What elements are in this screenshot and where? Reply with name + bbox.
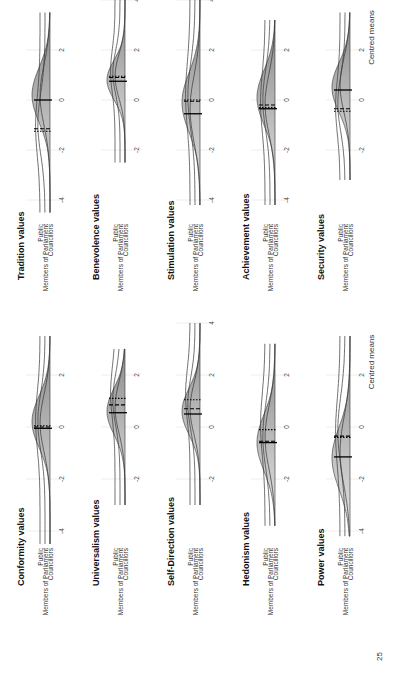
tick-label: -2 (358, 147, 365, 153)
tick-label: -2 (58, 147, 65, 153)
tick-label: 0 (133, 425, 140, 429)
tick-label: 4 (133, 0, 140, 2)
tick-label: 2 (133, 48, 140, 52)
tick-label: 2 (58, 48, 65, 52)
panel-title: Tradition values (16, 211, 26, 280)
tick-label: 0 (283, 425, 290, 429)
panel-title: Conformity values (16, 507, 26, 586)
tick-label: -2 (283, 147, 290, 153)
panel-title: Security values (316, 214, 326, 280)
panel-title: Self-Direction values (166, 497, 176, 586)
tick-label: -4 (58, 528, 65, 534)
panel-title: Benevolence values (91, 194, 101, 280)
panel-power-values: Power valuesPublicMembers of ParliamentC… (316, 335, 376, 616)
tick-label: 0 (358, 425, 365, 429)
group-label: Councillors (272, 223, 279, 256)
tick-label: 2 (358, 48, 365, 52)
panel-title: Power values (316, 528, 326, 586)
tick-label: 0 (58, 425, 65, 429)
group-label: Councillors (47, 547, 54, 580)
group-label: Councillors (122, 223, 129, 256)
density-area (257, 20, 275, 205)
tick-label: 2 (208, 373, 215, 377)
panel-benevolence-values: Benevolence valuesPublicMembers of Parli… (91, 0, 140, 291)
group-label: Councillors (272, 547, 279, 580)
x-axis-label: Centred means (367, 10, 376, 65)
density-area (257, 344, 275, 526)
density-area (32, 13, 50, 213)
group-label: Councillors (197, 547, 204, 580)
tick-label: -4 (208, 197, 215, 203)
panel-self-direction-values: Self-Direction valuesPublicMembers of Pa… (166, 321, 215, 615)
panel-hedonism-values: Hedonism valuesPublicMembers of Parliame… (241, 344, 290, 615)
tick-label: 0 (58, 98, 65, 102)
tick-label: 2 (358, 373, 365, 377)
tick-label: 0 (208, 98, 215, 102)
tick-label: -2 (58, 476, 65, 482)
tick-label: 2 (133, 373, 140, 377)
panel-title: Achievement values (241, 193, 251, 280)
panel-security-values: Security valuesPublicMembers of Parliame… (316, 10, 376, 291)
tick-label: -2 (133, 476, 140, 482)
tick-label: 0 (283, 98, 290, 102)
panel-title: Hedonism values (241, 512, 251, 586)
group-label: Councillors (197, 223, 204, 256)
tick-label: 0 (208, 425, 215, 429)
panel-title: Stimulation values (166, 200, 176, 280)
panel-title: Universalism values (91, 499, 101, 586)
panel-stimulation-values: Stimulation valuesPublicMembers of Parli… (166, 0, 215, 291)
tick-label: 2 (208, 48, 215, 52)
density-area (182, 0, 200, 205)
group-label: Councillors (47, 223, 54, 256)
density-area (32, 336, 50, 544)
tick-label: -4 (283, 197, 290, 203)
page-number: 25 (375, 652, 384, 661)
tick-label: 2 (58, 373, 65, 377)
tick-label: -4 (358, 528, 365, 534)
panel-conformity-values: Conformity valuesPublicMembers of Parlia… (16, 336, 65, 615)
group-label: Councillors (347, 547, 354, 580)
tick-label: -2 (208, 476, 215, 482)
panel-tradition-values: Tradition valuesPublicMembers of Parliam… (16, 13, 65, 292)
tick-label: -2 (208, 147, 215, 153)
panel-universalism-values: Universalism valuesPublicMembers of Parl… (91, 349, 140, 615)
tick-label: 2 (283, 48, 290, 52)
tick-label: -2 (283, 476, 290, 482)
tick-label: 4 (208, 321, 215, 325)
group-label: Councillors (122, 547, 129, 580)
tick-label: -2 (358, 476, 365, 482)
tick-label: 0 (358, 98, 365, 102)
tick-label: 0 (133, 98, 140, 102)
rotated-figure-page: Conformity valuesPublicMembers of Parlia… (0, 0, 405, 676)
tick-label: 2 (283, 373, 290, 377)
tick-label: -4 (58, 197, 65, 203)
tick-label: 4 (208, 0, 215, 2)
tick-label: -2 (133, 147, 140, 153)
x-axis-label: Centred means (367, 335, 376, 390)
panel-achievement-values: Achievement valuesPublicMembers of Parli… (241, 20, 290, 291)
group-label: Councillors (347, 223, 354, 256)
ridgeline-figure: Conformity valuesPublicMembers of Parlia… (0, 0, 405, 676)
